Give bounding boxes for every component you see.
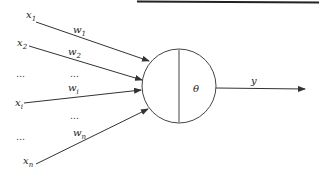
top-rule bbox=[137, 2, 319, 3]
input-label-n: xn bbox=[23, 155, 34, 169]
threshold-label: θ bbox=[193, 83, 199, 94]
input-arrow-i bbox=[24, 90, 141, 103]
weight-label-n: wn bbox=[73, 127, 87, 141]
ellipsis-weights-lower: … bbox=[70, 111, 79, 121]
input-label-1: x1 bbox=[26, 9, 36, 23]
output-arrow bbox=[216, 88, 305, 89]
input-label-2: x2 bbox=[17, 37, 28, 51]
input-arrow-n bbox=[36, 109, 148, 164]
input-label-i: xi bbox=[15, 97, 23, 111]
output-label: y bbox=[250, 75, 257, 86]
input-arrow-2 bbox=[29, 46, 142, 80]
weight-label-i: wi bbox=[68, 82, 79, 96]
ellipsis-weights-upper: … bbox=[70, 69, 79, 79]
neuron-diagram: θ y x1 x2 xi xn w1 w2 wi wn … … … … bbox=[0, 0, 319, 179]
ellipsis-inputs-upper: … bbox=[16, 69, 25, 79]
input-arrow-1 bbox=[36, 22, 149, 61]
ellipsis-inputs-lower: … bbox=[16, 132, 25, 142]
